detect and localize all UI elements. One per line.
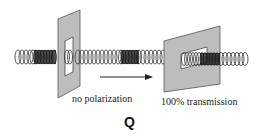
caption-100-transmission: 100% transmission	[161, 96, 237, 107]
coil-segment-middle	[75, 50, 166, 64]
vertical-slit	[65, 37, 73, 76]
panel-label: Q	[124, 114, 135, 130]
coil-shadow-left	[34, 50, 56, 64]
caption-no-polarization: no polarization	[72, 93, 132, 104]
coil-shadow-middle	[121, 50, 139, 64]
coil-shadow-right	[200, 53, 220, 65]
arrow-icon	[100, 74, 153, 80]
